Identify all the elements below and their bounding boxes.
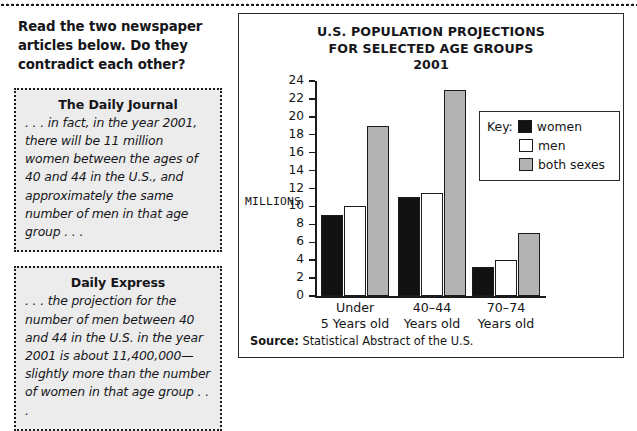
source-text: Statistical Abstract of the U.S. [302, 334, 473, 348]
y-tick-mark [309, 98, 315, 99]
legend-key-label: Key: [487, 119, 513, 134]
article-title: The Daily Journal [25, 97, 211, 112]
bar-group [321, 81, 389, 296]
bar-both-sexes-0 [367, 126, 389, 296]
bar-women-2 [472, 267, 494, 296]
y-tick-mark [309, 295, 315, 296]
legend-swatch-both-sexes-icon [519, 158, 533, 171]
y-tick-mark [309, 277, 315, 278]
y-tick-label: 10 [278, 199, 304, 211]
y-tick-mark [309, 152, 315, 153]
legend-row-both-sexes: both sexes [487, 155, 611, 174]
y-tick-label: 18 [278, 128, 304, 140]
bar-men-2 [495, 260, 517, 296]
y-tick-label: 12 [278, 182, 304, 194]
y-tick-mark [309, 259, 315, 260]
left-column: Read the two newspaper articles below. D… [14, 16, 222, 431]
legend-label-women: women [537, 119, 582, 134]
legend-row-men: men [487, 136, 611, 155]
y-tick-mark [309, 116, 315, 117]
y-tick-label: 4 [278, 253, 304, 265]
bar-group [398, 81, 466, 296]
legend-label-men: men [538, 138, 566, 153]
y-tick-mark [309, 206, 315, 207]
bar-both-sexes-1 [444, 90, 466, 296]
article-body: . . . the projection for the number of m… [25, 292, 211, 420]
y-tick-label: 20 [278, 110, 304, 122]
chart-legend: Key: women men both sexes [479, 111, 620, 181]
source-label: Source: [250, 334, 299, 348]
bar-women-0 [321, 215, 343, 296]
y-axis-line [315, 81, 317, 298]
article-body: . . . in fact, in the year 2001, there w… [25, 114, 211, 242]
y-tick-label: 2 [278, 271, 304, 283]
y-tick-label: 22 [278, 92, 304, 104]
bar-both-sexes-2 [518, 233, 540, 296]
legend-swatch-men-icon [519, 139, 533, 152]
y-tick-mark [309, 188, 315, 189]
legend-swatch-women-icon [518, 120, 532, 133]
y-tick-label: 6 [278, 235, 304, 247]
y-tick-mark [309, 80, 315, 81]
bar-chart-plot: MILLIONS 024681012141618202224 Under5 Ye… [239, 14, 625, 359]
question-prompt: Read the two newspaper articles below. D… [14, 16, 222, 75]
bar-women-1 [398, 197, 420, 296]
article-card-daily-journal: The Daily Journal . . . in fact, in the … [14, 88, 222, 253]
legend-row-women: Key: women [487, 117, 611, 136]
chart-panel: U.S. POPULATION PROJECTIONS FOR SELECTED… [238, 13, 624, 358]
x-category-label-line: 70–74 [449, 300, 563, 316]
legend-label-both-sexes: both sexes [538, 157, 605, 172]
article-card-daily-express: Daily Express . . . the projection for t… [14, 266, 222, 431]
y-tick-mark [309, 134, 315, 135]
y-tick-label: 16 [278, 146, 304, 158]
y-tick-label: 8 [278, 217, 304, 229]
y-tick-label: 24 [278, 74, 304, 86]
y-tick-mark [309, 224, 315, 225]
x-category-label-line: Years old [449, 316, 563, 332]
y-tick-label: 14 [278, 164, 304, 176]
y-tick-mark [309, 242, 315, 243]
article-title: Daily Express [25, 275, 211, 290]
x-axis-line [315, 296, 546, 298]
top-dotted-divider [0, 2, 637, 6]
chart-source: Source: Statistical Abstract of the U.S. [250, 334, 473, 348]
bar-men-0 [344, 206, 366, 296]
bar-men-1 [421, 193, 443, 296]
x-category-label: 70–74Years old [449, 300, 563, 333]
y-tick-mark [309, 170, 315, 171]
